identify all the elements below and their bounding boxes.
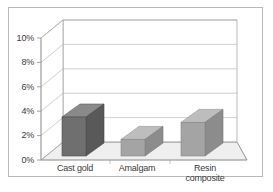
x-category-label-amalgam: Amalgam [104,163,170,173]
bar-front-face [121,139,145,156]
y-axis-ticks [37,38,41,160]
y-tick-label-6: 6% [4,82,34,92]
y-tick-label-8: 8% [4,57,34,67]
x-category-line2: composite [185,173,224,183]
y-tick-label-2: 2% [4,130,34,140]
x-category-label-resin-composite: Resin composite [166,163,244,183]
y-tick-label-10: 10% [4,33,34,43]
chart-left-wall [41,20,63,160]
x-category-line1: Amalgam [119,163,156,173]
bar-front-face [62,117,86,156]
x-category-line1: Resin [194,163,216,173]
x-category-label-cast-gold: Cast gold [40,163,110,173]
x-category-line1: Cast gold [57,163,93,173]
y-tick-label-0: 0% [4,155,34,165]
y-tick-label-4: 4% [4,106,34,116]
bar-front-face [181,122,205,156]
